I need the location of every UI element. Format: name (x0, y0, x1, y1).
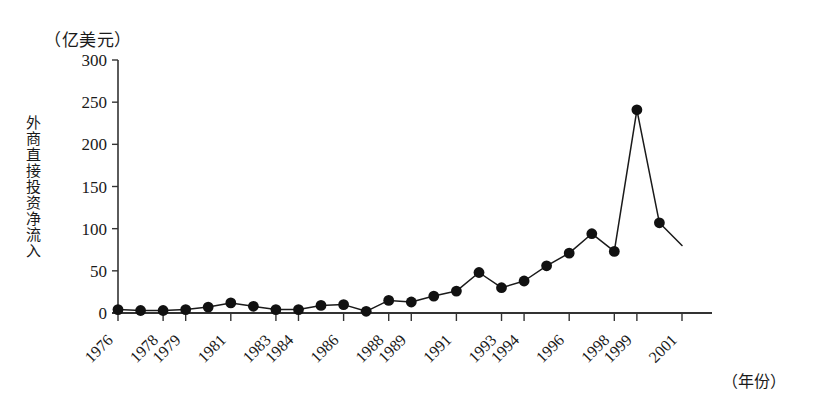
data-point-marker (541, 260, 552, 271)
data-point-marker (293, 304, 304, 315)
data-point-marker (203, 302, 214, 313)
data-point-markers (113, 104, 665, 316)
line-chart-plot: 050100150200250300 197619781979198119831… (0, 0, 815, 415)
y-axis-tick-label: 0 (99, 304, 108, 323)
data-point-marker (225, 298, 236, 309)
data-point-marker (632, 104, 643, 115)
x-axis-tick-label: 1986 (307, 331, 342, 366)
data-series-line (118, 110, 682, 311)
x-axis-tick-label: 1996 (533, 331, 568, 366)
x-axis-labels: 1976197819791981198319841986198819891991… (81, 331, 680, 366)
data-point-marker (383, 295, 394, 306)
data-point-marker (451, 286, 462, 297)
y-axis-tick-label: 300 (82, 51, 108, 70)
data-point-marker (248, 301, 259, 312)
data-point-marker (158, 305, 169, 316)
y-axis-tick-label: 200 (82, 135, 108, 154)
x-axis-tick-label: 1976 (81, 331, 116, 366)
y-axis-tick-group: 050100150200250300 (82, 51, 119, 323)
y-axis-tick-label: 50 (90, 262, 107, 281)
data-point-marker (586, 228, 597, 239)
y-axis-tick-label: 150 (82, 178, 108, 197)
y-axis-tick-label: 250 (82, 93, 108, 112)
data-point-marker (135, 305, 146, 316)
x-axis-tick-label: 1981 (194, 331, 229, 366)
x-axis-tick-label: 1991 (420, 331, 455, 366)
data-point-marker (180, 304, 191, 315)
data-point-marker (361, 306, 372, 317)
data-point-marker (564, 248, 575, 259)
data-point-marker (406, 297, 417, 308)
data-point-marker (654, 217, 665, 228)
data-point-marker (428, 291, 439, 302)
data-point-marker (338, 299, 349, 310)
data-point-marker (474, 267, 485, 278)
chart-container: （亿美元） 外商直接投资净流入 （年份） 050100150200250300 … (0, 0, 815, 415)
x-axis-tick-label: 2001 (645, 331, 680, 366)
data-point-marker (496, 282, 507, 293)
data-point-marker (271, 304, 282, 315)
y-axis-tick-label: 100 (82, 220, 108, 239)
x-axis-tick-group (118, 313, 682, 321)
data-point-marker (113, 304, 124, 315)
data-point-marker (316, 300, 327, 311)
data-point-marker (519, 276, 530, 287)
data-point-marker (609, 246, 620, 257)
